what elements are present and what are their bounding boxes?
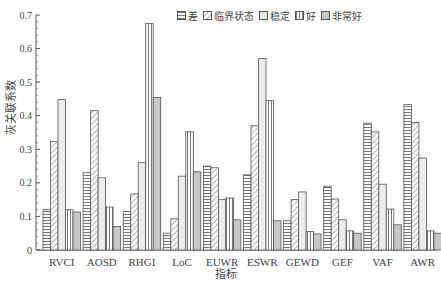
x-tick-label: ESWR <box>247 256 278 268</box>
bar <box>314 234 322 250</box>
x-tick-label: AOSD <box>87 256 117 268</box>
y-tick-label: 0.5 <box>20 77 33 88</box>
legend: 差 临界状态 稳定 好 非常好 <box>177 8 362 23</box>
bar <box>218 200 226 250</box>
bar <box>331 199 339 250</box>
bar <box>233 220 241 250</box>
y-tick-label: 0.2 <box>20 177 33 188</box>
bar <box>131 194 139 250</box>
bar <box>186 132 194 250</box>
legend-item-poor: 差 <box>177 8 198 23</box>
legend-swatch-vertical <box>295 11 304 20</box>
y-tick-label: 0.1 <box>20 211 33 222</box>
bar <box>153 98 161 250</box>
legend-item-stable: 稳定 <box>259 8 290 23</box>
bar <box>306 232 314 250</box>
bar <box>364 123 372 250</box>
bar <box>354 233 362 250</box>
bar <box>106 207 114 250</box>
legend-item-very-good: 非常好 <box>321 8 362 23</box>
legend-swatch-horizontal <box>177 11 186 20</box>
legend-item-critical: 临界状态 <box>203 8 254 23</box>
bar <box>226 198 234 250</box>
bar <box>58 100 66 250</box>
bar <box>411 122 419 250</box>
bar <box>299 192 307 250</box>
bar <box>244 175 252 250</box>
legend-swatch-gray <box>321 11 330 20</box>
bar <box>346 231 354 250</box>
bar <box>394 225 402 250</box>
legend-label: 好 <box>306 8 316 23</box>
bar <box>339 220 347 250</box>
bar <box>324 186 332 250</box>
bar <box>178 176 186 250</box>
bar <box>251 126 259 250</box>
legend-label: 临界状态 <box>214 8 254 23</box>
legend-label: 非常好 <box>332 8 362 23</box>
legend-swatch-diagonal <box>203 11 212 20</box>
bar <box>404 105 412 250</box>
bar <box>193 172 201 250</box>
bar-chart: 00.10.20.30.40.50.60.7RVCIAOSDRHGILoCEUW… <box>0 0 441 285</box>
x-tick-label: RVCI <box>49 256 75 268</box>
x-tick-label: GEF <box>332 256 353 268</box>
bar <box>274 221 282 250</box>
bar <box>419 158 427 250</box>
bar <box>426 231 434 250</box>
bars <box>43 23 441 250</box>
bar <box>113 227 121 251</box>
bar <box>434 233 441 250</box>
legend-swatch-light <box>259 11 268 20</box>
bar <box>91 111 99 250</box>
x-tick-label: RHGI <box>129 256 156 268</box>
bar <box>163 233 171 250</box>
legend-label: 差 <box>188 8 198 23</box>
bar <box>73 212 81 250</box>
bar <box>379 184 387 250</box>
y-tick-label: 0.6 <box>20 43 33 54</box>
bar <box>211 168 219 250</box>
y-tick-label: 0.3 <box>20 144 33 155</box>
bar <box>51 142 59 250</box>
y-tick-label: 0.4 <box>20 110 33 121</box>
legend-item-good: 好 <box>295 8 316 23</box>
bar <box>386 209 394 250</box>
bar <box>259 59 267 250</box>
bar <box>146 23 154 250</box>
x-tick-label: AWR <box>410 256 435 268</box>
bar <box>266 101 274 250</box>
x-axis-label: 指标 <box>215 265 237 281</box>
legend-label: 稳定 <box>270 8 290 23</box>
bar <box>123 211 131 250</box>
bar <box>203 166 211 250</box>
bar <box>66 210 74 250</box>
bar <box>371 132 379 250</box>
bar <box>43 210 51 250</box>
bar <box>98 178 106 250</box>
y-axis-label: 灰关联系数 <box>2 80 18 135</box>
bar <box>284 221 292 250</box>
bar <box>138 163 146 250</box>
x-tick-label: VAF <box>372 256 393 268</box>
x-tick-label: GEWD <box>286 256 319 268</box>
bar <box>171 219 179 250</box>
bar <box>291 200 299 250</box>
y-tick-label: 0.7 <box>20 10 33 21</box>
y-tick-label: 0 <box>27 245 32 256</box>
x-tick-label: LoC <box>172 256 192 268</box>
bar <box>83 173 91 250</box>
